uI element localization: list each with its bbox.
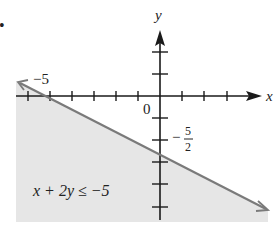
y-axis-label: y bbox=[153, 7, 162, 23]
origin-label: 0 bbox=[143, 101, 151, 117]
bullet: • bbox=[0, 17, 5, 34]
shaded-region bbox=[16, 81, 268, 222]
svg-text:5: 5 bbox=[185, 124, 191, 138]
x-intercept-label: −5 bbox=[33, 71, 49, 87]
svg-text:−: − bbox=[172, 129, 180, 145]
inequality-graph: • y x 0 −5 − 5 2 x + 2y ≤ −5 bbox=[0, 0, 275, 234]
svg-text:2: 2 bbox=[185, 140, 191, 154]
inequality-label: x + 2y ≤ −5 bbox=[32, 182, 110, 200]
x-axis-label: x bbox=[265, 88, 273, 104]
y-intercept-label: − 5 2 bbox=[172, 124, 193, 154]
